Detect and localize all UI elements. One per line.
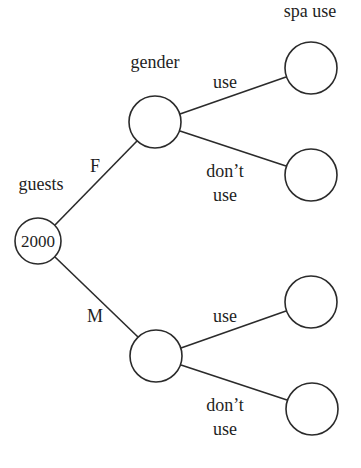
node-male (130, 330, 182, 382)
header-spa-use: spa use (284, 1, 337, 21)
header-guests: guests (19, 174, 64, 194)
edge-label-m: M (87, 306, 103, 326)
edge-root-female (55, 141, 137, 225)
edge-label-female-dont-line1: don’t (206, 161, 244, 181)
edge-label-f: F (90, 156, 100, 176)
node-male-use (285, 276, 337, 328)
edge-label-male-dont-line2: use (213, 419, 237, 439)
node-male-dont-use (286, 383, 338, 435)
root-node-value: 2000 (21, 232, 55, 251)
edge-label-female-use: use (213, 72, 237, 92)
header-gender: gender (131, 52, 180, 72)
edge-label-male-dont-line1: don’t (206, 395, 244, 415)
node-female-use (285, 42, 337, 94)
node-female (129, 96, 181, 148)
edge-label-female-dont-line2: use (213, 185, 237, 205)
tree-diagram: 2000 guests gender spa use F M use don’t… (0, 0, 361, 468)
tree-diagram-svg: 2000 guests gender spa use F M use don’t… (0, 0, 361, 468)
edge-label-male-use: use (213, 306, 237, 326)
node-female-dont-use (285, 149, 337, 201)
